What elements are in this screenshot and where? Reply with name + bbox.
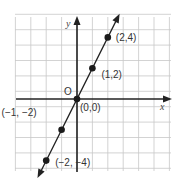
data-point — [89, 65, 96, 72]
point-label: (−1, −2) — [2, 107, 37, 118]
x-axis-label: x — [159, 101, 165, 112]
grid — [15, 14, 171, 171]
point-label: (0,0) — [80, 102, 101, 113]
origin-label: O — [64, 86, 72, 97]
data-point — [43, 157, 50, 164]
point-label: (2,4) — [116, 32, 137, 43]
point-label: (−2, −4) — [55, 157, 90, 168]
data-points: (2,4)(1,2)(0,0)(−1, −2)(−2, −4) — [2, 32, 137, 167]
y-axis-arrow-icon — [74, 16, 81, 25]
data-point — [105, 34, 112, 41]
coordinate-plane: (2,4)(1,2)(0,0)(−1, −2)(−2, −4) y x O — [0, 0, 177, 188]
y-axis-label: y — [65, 18, 71, 29]
point-label: (1,2) — [101, 69, 122, 80]
line-arrow-down-icon — [37, 168, 44, 178]
line-arrow-up-icon — [112, 14, 119, 24]
data-point — [58, 127, 65, 134]
